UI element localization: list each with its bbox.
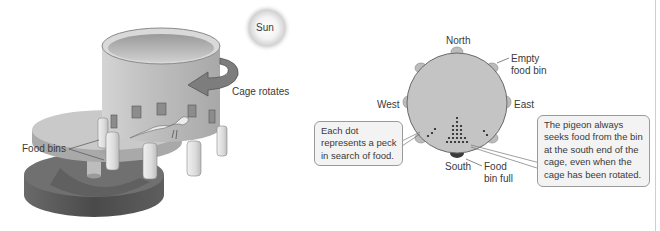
cage-rotates-label: Cage rotates	[232, 86, 289, 98]
page-edge-divider	[655, 0, 656, 231]
empty-bin-label: Empty food bin	[511, 53, 547, 77]
food-bins-label: Food bins	[22, 143, 66, 155]
south-label: South	[445, 161, 471, 173]
sun-label: Sun	[256, 22, 274, 34]
north-label: North	[446, 35, 470, 47]
empty-bin-pointer	[497, 58, 509, 63]
east-label: East	[514, 99, 534, 111]
pigeon-callout: The pigeon always seeks food from the bi…	[537, 115, 650, 187]
dot-callout: Each dot represents a peck in search of …	[314, 121, 403, 166]
full-bin-label: Food bin full	[484, 161, 513, 185]
west-label: West	[377, 99, 400, 111]
